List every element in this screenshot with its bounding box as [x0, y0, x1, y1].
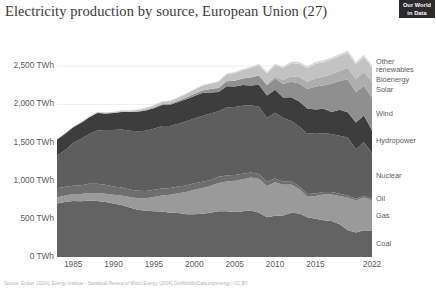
x-axis: 19851990199520002005201020152022: [0, 259, 436, 273]
y-axis-label: 2,000 TWh: [14, 98, 54, 108]
y-axis-label: 2,500 TWh: [14, 60, 54, 70]
stacked-area-svg: [57, 28, 372, 257]
x-axis-label: 2000: [185, 259, 203, 269]
y-axis-label: 1,000 TWh: [14, 175, 54, 185]
legend-item-hydropower[interactable]: Hydropower: [376, 137, 416, 145]
x-axis-label: 2010: [266, 259, 284, 269]
x-axis-label: 2005: [225, 259, 243, 269]
plot-area: [57, 28, 372, 257]
chart-container: Electricity production by source, Europe…: [0, 0, 436, 291]
x-axis-label: 1995: [145, 259, 163, 269]
chart-footer: Source: Ember (2024); Energy Institute -…: [4, 281, 434, 287]
x-axis-label: 1990: [104, 259, 122, 269]
legend-item-other-renewables[interactable]: Other renewables: [376, 58, 414, 75]
y-axis-label: 500 TWh: [20, 213, 54, 223]
legend-item-coal[interactable]: Coal: [376, 240, 391, 248]
legend: Other renewablesBioenergySolarWindHydrop…: [376, 0, 436, 291]
legend-item-solar[interactable]: Solar: [376, 86, 393, 94]
x-axis-label: 1985: [64, 259, 82, 269]
y-axis: 2,500 TWh2,000 TWh1,500 TWh1,000 TWh500 …: [0, 0, 54, 291]
legend-item-gas[interactable]: Gas: [376, 212, 390, 220]
legend-item-oil[interactable]: Oil: [376, 195, 385, 203]
y-axis-label: 1,500 TWh: [14, 137, 54, 147]
area-series-group: [57, 51, 372, 257]
legend-item-nuclear[interactable]: Nuclear: [376, 172, 401, 180]
x-axis-label: 2015: [306, 259, 324, 269]
legend-item-bioenergy[interactable]: Bioenergy: [376, 76, 409, 84]
legend-item-wind[interactable]: Wind: [376, 110, 393, 118]
